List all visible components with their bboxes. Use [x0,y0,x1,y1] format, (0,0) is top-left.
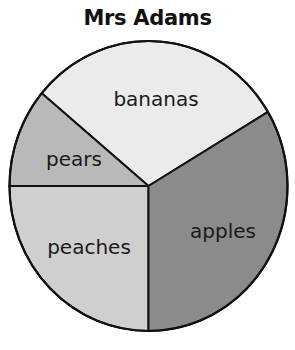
slice-label-apples: apples [190,219,256,243]
pie-chart: bananas pears peaches apples [0,0,295,350]
pie-slices [10,41,288,331]
slice-label-bananas: bananas [113,87,198,111]
slice-label-pears: pears [46,147,102,171]
slice-label-peaches: peaches [47,235,131,259]
